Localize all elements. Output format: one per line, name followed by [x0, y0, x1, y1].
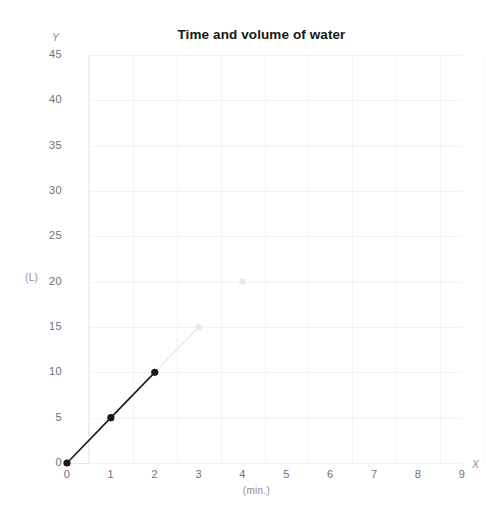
- plot-area: [67, 55, 462, 463]
- chart-container: Time and volume of water Y X (L) (min.) …: [0, 0, 503, 525]
- x-tick-label: 7: [359, 468, 389, 480]
- gridline-vertical: [352, 55, 353, 463]
- x-tick-label: 0: [52, 468, 82, 480]
- x-tick-label: 6: [315, 468, 345, 480]
- y-tick-label: 40: [22, 93, 62, 105]
- gridline-vertical: [221, 55, 222, 463]
- x-tick-label: 4: [228, 468, 258, 480]
- gridline-horizontal: [88, 282, 462, 283]
- y-tick-label: 35: [22, 139, 62, 151]
- gridline-horizontal: [88, 191, 462, 192]
- y-tick-label: 25: [22, 229, 62, 241]
- gridline-horizontal: [88, 236, 462, 237]
- y-tick-label: 10: [22, 365, 62, 377]
- gridline-horizontal: [88, 372, 462, 373]
- gridline-vertical: [440, 55, 441, 463]
- gridline-vertical: [133, 55, 134, 463]
- gridline-vertical: [265, 55, 266, 463]
- x-tick-label: 9: [447, 468, 477, 480]
- x-tick-label: 5: [271, 468, 301, 480]
- x-tick-label: 3: [184, 468, 214, 480]
- x-tick-label: 2: [140, 468, 170, 480]
- y-tick-label: 15: [22, 320, 62, 332]
- gridline-horizontal: [88, 146, 462, 147]
- y-axis-name: Y: [52, 31, 59, 43]
- gridline-horizontal: [88, 418, 462, 419]
- y-tick-label: 20: [22, 275, 62, 287]
- x-axis-tick-labels: 0123456789: [67, 468, 467, 488]
- x-tick-label: 1: [96, 468, 126, 480]
- gridline-horizontal: [88, 463, 462, 464]
- y-axis-tick-labels: 454035302520151050: [18, 55, 62, 463]
- gridline-vertical: [177, 55, 178, 463]
- gridline-vertical: [484, 55, 485, 463]
- y-tick-label: 45: [22, 48, 62, 60]
- y-tick-label: 30: [22, 184, 62, 196]
- x-tick-label: 8: [403, 468, 433, 480]
- gridline-vertical: [308, 55, 309, 463]
- gridline-vertical: [396, 55, 397, 463]
- gridline-horizontal: [88, 100, 462, 101]
- gridline-horizontal: [88, 55, 462, 56]
- chart-title: Time and volume of water: [0, 27, 503, 42]
- y-tick-label: 5: [22, 411, 62, 423]
- y-tick-label: 0: [22, 456, 62, 468]
- chart-title-text: Time and volume of water: [178, 27, 346, 42]
- gridline-vertical: [89, 55, 90, 463]
- gridline-horizontal: [88, 327, 462, 328]
